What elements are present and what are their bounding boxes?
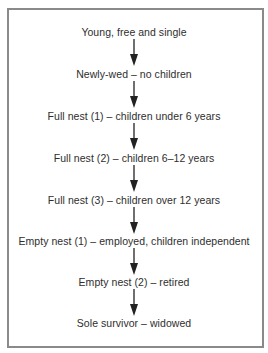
stage-full-nest-3: Full nest (3) – children over 12 years xyxy=(0,194,268,206)
stage-empty-nest-2: Empty nest (2) – retired xyxy=(0,276,268,288)
arrow-down-icon xyxy=(128,248,140,275)
arrow-down-icon xyxy=(128,165,140,192)
arrow-down-icon xyxy=(128,39,140,66)
stage-young-free-single: Young, free and single xyxy=(0,26,268,38)
stage-full-nest-2: Full nest (2) – children 6–12 years xyxy=(0,152,268,164)
arrow-down-icon xyxy=(128,289,140,316)
arrow-down-icon xyxy=(128,81,140,108)
stage-sole-survivor: Sole survivor – widowed xyxy=(0,317,268,329)
stage-empty-nest-1: Empty nest (1) – employed, children inde… xyxy=(0,235,268,247)
stage-newly-wed: Newly-wed – no children xyxy=(0,68,268,80)
arrow-down-icon xyxy=(128,123,140,150)
arrow-down-icon xyxy=(128,207,140,234)
stage-full-nest-1: Full nest (1) – children under 6 years xyxy=(0,110,268,122)
